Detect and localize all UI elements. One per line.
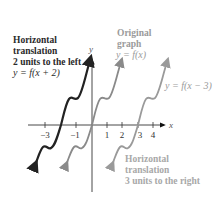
right-translation-label-line2: translation (125, 165, 169, 175)
chart-plot: −3 −1 1 2 3 4 x y (0, 0, 224, 202)
curve-f-x-minus-3 (112, 62, 167, 165)
curve-f-x (66, 62, 121, 165)
left-equation-label: y = f(x + 2) (13, 68, 60, 78)
x-axis-label: x (168, 120, 173, 130)
original-graph-label-line1: Original (117, 28, 151, 38)
right-translation-label-line3: 3 units to the right (125, 176, 200, 186)
tick-label: 3 (138, 130, 143, 140)
tick-label: 1 (105, 130, 110, 140)
left-translation-label-line2: translation (13, 46, 57, 56)
tick-label: 2 (120, 130, 125, 140)
tick-label: 4 (151, 130, 156, 140)
original-graph-label-line2: graph (117, 39, 141, 49)
tick-label: −3 (40, 130, 50, 140)
tick-label: −1 (70, 130, 80, 140)
y-axis-label: y (88, 44, 93, 54)
left-translation-label-line3: 2 units to the left (13, 57, 81, 67)
right-equation-label: y = f(x − 3) (165, 81, 212, 91)
right-translation-label-line1: Horizontal (125, 154, 169, 164)
left-translation-label-line1: Horizontal (13, 35, 57, 45)
original-equation-label: y = f(x) (116, 50, 146, 60)
